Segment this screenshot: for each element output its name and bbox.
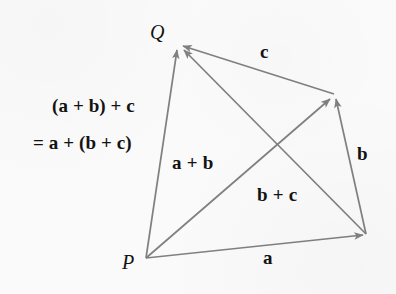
vector-a-arrow (146, 235, 363, 258)
vector-label-b: b (357, 144, 368, 163)
point-label-q: Q (150, 22, 164, 42)
vector-label-a: a (263, 248, 273, 267)
vector-b-plus-c-arrow (184, 50, 366, 234)
vector-c-arrow (183, 46, 334, 94)
annotation-sum-line-2: = a + (b + c) (33, 133, 132, 152)
vector-label-a-plus-b: a + b (172, 153, 213, 172)
vector-label-c: c (260, 42, 269, 61)
vector-b-arrow (336, 99, 366, 234)
vector-label-b-plus-c: b + c (257, 185, 297, 204)
point-label-p: P (122, 252, 134, 272)
annotation-sum-line-1: (a + b) + c (52, 96, 135, 115)
vector-a-plus-b-arrow (146, 99, 330, 258)
vector-associativity-figure: Q P c b a a + b b + c (a + b) + c = a + … (0, 0, 396, 294)
